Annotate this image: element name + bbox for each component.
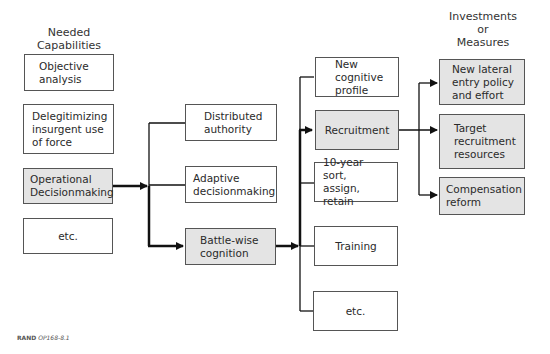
box-training: Training bbox=[314, 226, 398, 266]
box-operational-decisionmaking: Operational Decisionmaking bbox=[23, 168, 113, 204]
box-label: Target recruitment resources bbox=[454, 122, 516, 161]
box-label: Recruitment bbox=[325, 124, 390, 137]
header-investments-measures: Investments or Measures bbox=[432, 10, 534, 49]
box-recruitment: Recruitment bbox=[315, 110, 399, 150]
box-10-year-sort-assign-retain: 10-year sort, assign, retain bbox=[314, 162, 398, 202]
box-label: Objective analysis bbox=[39, 60, 89, 86]
box-target-recruitment-resources: Target recruitment resources bbox=[439, 114, 525, 169]
footer-code: OP168-8.1 bbox=[38, 334, 70, 341]
box-etc-capabilities: etc. bbox=[23, 218, 113, 254]
header-needed-capabilities: Needed Capabilities bbox=[18, 26, 120, 52]
box-delegitimizing-insurgent-force: Delegitimizing insurgent use of force bbox=[23, 104, 114, 154]
box-label: Adaptive decisionmaking bbox=[193, 172, 275, 198]
box-battle-wise-cognition: Battle-wise cognition bbox=[185, 228, 276, 265]
box-compensation-reform: Compensation reform bbox=[439, 177, 525, 215]
box-label: Delegitimizing insurgent use of force bbox=[32, 110, 107, 149]
box-label: Distributed authority bbox=[204, 110, 262, 136]
header-needed-capabilities-text: Needed Capabilities bbox=[37, 26, 101, 52]
box-label: 10-year sort, assign, retain bbox=[323, 156, 389, 208]
box-label: Battle-wise cognition bbox=[200, 234, 258, 260]
box-new-cognitive-profile: New cognitive profile bbox=[315, 57, 399, 97]
box-label: etc. bbox=[58, 230, 78, 243]
box-label: New cognitive profile bbox=[335, 58, 383, 97]
box-distributed-authority: Distributed authority bbox=[185, 104, 277, 141]
box-label: Training bbox=[335, 240, 376, 253]
box-label: Operational Decisionmaking bbox=[30, 173, 114, 199]
footer-org: RAND bbox=[17, 334, 36, 341]
figure-source-label: RAND OP168-8.1 bbox=[17, 334, 70, 341]
box-adaptive-decisionmaking: Adaptive decisionmaking bbox=[185, 166, 277, 203]
box-objective-analysis: Objective analysis bbox=[24, 54, 114, 91]
box-label: Compensation reform bbox=[446, 183, 522, 209]
box-label: New lateral entry policy and effort bbox=[452, 63, 514, 102]
box-new-lateral-entry: New lateral entry policy and effort bbox=[439, 59, 525, 105]
box-etc-programs: etc. bbox=[313, 291, 398, 331]
box-label: etc. bbox=[346, 305, 366, 318]
header-investments-measures-text: Investments or Measures bbox=[449, 10, 517, 49]
diagram-canvas: Needed Capabilities Investments or Measu… bbox=[0, 0, 550, 354]
